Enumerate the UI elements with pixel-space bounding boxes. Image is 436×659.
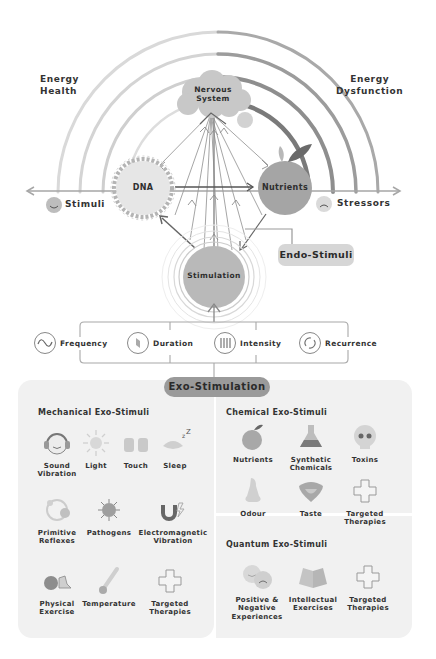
item-label-2: Therapies xyxy=(335,604,401,612)
energy-dysfunction-line2: Dysfunction xyxy=(336,86,403,98)
nervous-line2: System xyxy=(185,95,241,104)
frequency-label: Frequency xyxy=(60,339,108,348)
sine-wave-icon xyxy=(34,332,56,354)
nervous-system-label: Nervous System xyxy=(185,86,241,103)
item-label: Targeted xyxy=(332,510,398,518)
stressors-label: Stressors xyxy=(337,198,390,210)
intensity-label: Intensity xyxy=(240,339,281,348)
stimuli-label: Stimuli xyxy=(65,199,105,211)
flask-icon xyxy=(295,422,327,452)
item-label: Electromagnetic xyxy=(136,529,210,537)
duration-label: Duration xyxy=(153,339,193,348)
parameter-frequency: Frequency xyxy=(34,332,108,354)
cross-icon xyxy=(154,566,186,596)
item-label-2: Vibration xyxy=(136,537,210,545)
energy-dysfunction-label: Energy Dysfunction xyxy=(336,74,403,97)
thermometer-icon xyxy=(93,566,125,596)
item-label-2: Reflexes xyxy=(24,537,90,545)
magnet-icon xyxy=(157,495,189,525)
item-label: Toxins xyxy=(332,456,398,464)
svg-text:z: z xyxy=(182,432,185,439)
chemical-item-odour: Odour xyxy=(220,476,286,518)
item-label: Nutrients xyxy=(220,456,286,464)
item-label-2: Vibration xyxy=(24,470,90,478)
quantum-item-targeted-therapies: TargetedTherapies xyxy=(335,562,401,613)
exo-stimulation-badge: Exo-Stimulation xyxy=(164,377,270,397)
hourglass-icon xyxy=(127,332,149,354)
happy-sad-faces-icon xyxy=(241,562,273,592)
item-label-2: Therapies xyxy=(137,608,203,616)
item-label-2: Therapies xyxy=(332,518,398,526)
reflex-cycle-icon xyxy=(41,495,73,525)
stressors-face-icon xyxy=(316,196,332,212)
chemical-item-toxins: Toxins xyxy=(332,422,398,464)
dna-label: DNA xyxy=(123,183,163,192)
tongue-icon xyxy=(295,476,327,506)
mechanical-item-pathogens: Pathogens xyxy=(76,495,142,537)
item-label-3: Experiences xyxy=(224,613,290,621)
svg-text:Z: Z xyxy=(186,428,191,436)
bars-icon xyxy=(214,332,236,354)
parameter-intensity: Intensity xyxy=(214,332,281,354)
nutrients-node xyxy=(258,144,312,215)
recurrence-label: Recurrence xyxy=(325,339,377,348)
endo-stimuli-badge: Endo-Stimuli xyxy=(278,244,354,266)
energy-dysfunction-line1: Energy xyxy=(336,74,403,86)
item-label: Targeted xyxy=(137,600,203,608)
sleeping-eye-icon: zZ xyxy=(159,428,191,458)
item-label-2: Chemicals xyxy=(278,464,344,472)
energy-health-line2: Health xyxy=(40,86,79,98)
item-label: Sleep xyxy=(142,462,208,470)
cross-icon xyxy=(352,562,384,592)
chemical-item-targeted-therapies: TargetedTherapies xyxy=(332,476,398,527)
quantum-title: Quantum Exo-Stimuli xyxy=(226,540,327,549)
ball-shoe-icon xyxy=(41,566,73,596)
cycle-arrows-icon xyxy=(299,332,321,354)
mechanical-item-temperature: Temperature xyxy=(76,566,142,608)
apple-icon xyxy=(237,422,269,452)
virus-icon xyxy=(93,495,125,525)
mechanical-title: Mechanical Exo-Stimuli xyxy=(38,408,149,417)
stimuli-face-icon xyxy=(46,197,62,213)
nutrients-label: Nutrients xyxy=(258,183,312,192)
parameter-duration: Duration xyxy=(127,332,193,354)
mechanical-item-electromagnetic: ElectromagneticVibration xyxy=(136,495,210,546)
skull-icon xyxy=(349,422,381,452)
item-label: Odour xyxy=(220,510,286,518)
mechanical-item-targeted-therapies: TargetedTherapies xyxy=(137,566,203,617)
chemical-item-nutrients: Nutrients xyxy=(220,422,286,464)
mechanical-item-sleep: zZ Sleep xyxy=(142,428,208,470)
item-label-2: Exercise xyxy=(24,608,90,616)
item-label: Temperature xyxy=(76,600,142,608)
nose-icon xyxy=(237,476,269,506)
cross-icon xyxy=(349,476,381,506)
open-book-icon xyxy=(297,562,329,592)
chemical-title: Chemical Exo-Stimuli xyxy=(226,408,327,417)
item-label: Pathogens xyxy=(76,529,142,537)
parameter-recurrence: Recurrence xyxy=(299,332,377,354)
energy-health-line1: Energy xyxy=(40,74,79,86)
energy-health-label: Energy Health xyxy=(40,74,79,97)
stimulation-label: Stimulation xyxy=(184,272,244,281)
item-label: Targeted xyxy=(335,596,401,604)
